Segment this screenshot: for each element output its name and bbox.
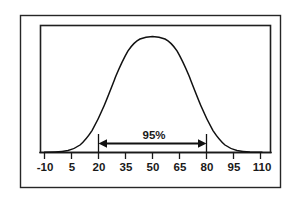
arrow-head-left <box>99 139 108 148</box>
x-tick-label-8: 110 <box>253 161 272 173</box>
chart-canvas: 95% -10 5 20 35 50 65 80 95 110 <box>0 0 299 200</box>
confidence-level-label: 95% <box>142 129 165 141</box>
normal-distribution-figure: 95% -10 5 20 35 50 65 80 95 110 <box>0 0 299 200</box>
x-tick-label-3: 35 <box>120 161 133 173</box>
arrow-head-right <box>198 139 207 148</box>
x-axis-ticks <box>45 153 261 160</box>
x-tick-label-0: -10 <box>37 161 54 173</box>
x-tick-label-7: 95 <box>228 161 241 173</box>
x-tick-label-6: 80 <box>201 161 214 173</box>
x-tick-label-1: 5 <box>69 161 76 173</box>
x-tick-label-5: 65 <box>174 161 187 173</box>
x-tick-label-4: 50 <box>147 161 160 173</box>
x-tick-label-2: 20 <box>93 161 106 173</box>
